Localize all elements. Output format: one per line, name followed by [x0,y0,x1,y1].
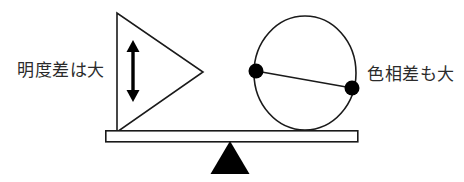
balance-scale-figure [0,0,464,182]
label-left-brightness-difference: 明度差は大 [17,60,105,80]
balance-beam [106,131,358,142]
fulcrum-triangle-icon [211,141,250,174]
dot-right-icon [345,81,360,96]
dot-left-icon [249,64,264,79]
chord-line [256,71,352,88]
double-headed-vertical-arrow-icon [127,40,140,102]
diagram-canvas: 明度差は大 色相差も大 [0,0,464,182]
triangle-right-pointing-icon [117,13,203,132]
label-right-hue-difference: 色相差も大 [367,64,455,84]
